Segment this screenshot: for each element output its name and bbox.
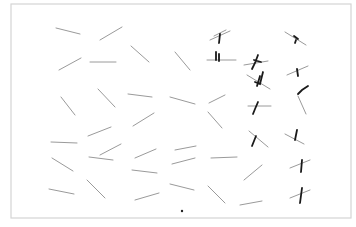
test-sheet [0,0,356,227]
stimulus-line [87,180,105,198]
stimulus-line-marked [298,96,306,114]
stimulus-line [175,146,196,150]
stimulus-line [208,112,222,128]
stimulus-line [51,142,77,143]
stimulus-line [133,113,154,126]
stimulus-line [88,127,111,136]
stimulus-line [98,89,115,107]
stimulus-line [208,186,225,203]
stimulus-line [89,157,113,160]
stimulus-line [131,46,149,62]
stimulus-line [172,158,195,164]
cancellation-mark [297,69,298,76]
cancellation-mark [252,55,261,69]
cancellation-mark [301,160,302,172]
stimulus-line [100,27,122,40]
stimulus-line [170,97,195,104]
stimulus-line [240,201,262,205]
stimulus-line [135,193,159,200]
stimulus-line [56,28,80,34]
cancellation-mark [252,136,256,146]
stimulus-line-marked [290,160,310,168]
stimulus-line [244,165,262,180]
stimulus-line [100,144,121,155]
line-cancellation-canvas [0,0,356,227]
stimulus-line [59,58,81,70]
stimulus-line [170,184,194,190]
cancellation-mark [294,36,298,43]
stimulus-line [52,158,73,171]
cancellation-mark [219,34,220,43]
cancellation-mark [298,86,308,94]
stimulus-line [175,52,190,70]
cancellation-mark [295,130,297,140]
stimulus-line [135,149,156,158]
stimulus-line [49,189,74,194]
cancellation-mark [300,188,302,203]
stimulus-line [132,170,157,173]
page-frame [11,4,351,218]
center-fixation-dot [181,210,183,212]
stimulus-line [209,95,225,103]
cancellation-mark [253,102,258,114]
stimulus-line [61,97,75,115]
stimulus-line [128,94,152,97]
stimulus-line [211,157,237,158]
